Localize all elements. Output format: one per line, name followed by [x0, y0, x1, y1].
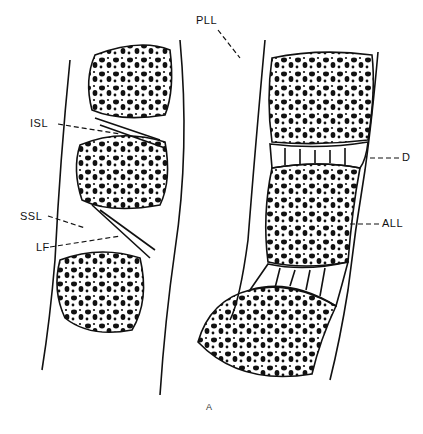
spinous-process-middle [76, 136, 167, 209]
vertebral-body-middle [266, 164, 360, 266]
spinous-process-lower [57, 252, 144, 332]
label-pll: PLL [196, 14, 217, 26]
spine-ligament-diagram [0, 0, 423, 434]
label-d: D [402, 151, 410, 163]
label-all: ALL [382, 217, 403, 229]
figure-caption: A [206, 402, 212, 412]
spinous-process-upper [89, 45, 172, 118]
vertebral-body-lower [198, 286, 336, 376]
label-ssl: SSL [20, 210, 42, 222]
label-lf: LF [36, 241, 50, 253]
label-isl: ISL [30, 117, 48, 129]
vertebral-body-upper [269, 52, 373, 143]
